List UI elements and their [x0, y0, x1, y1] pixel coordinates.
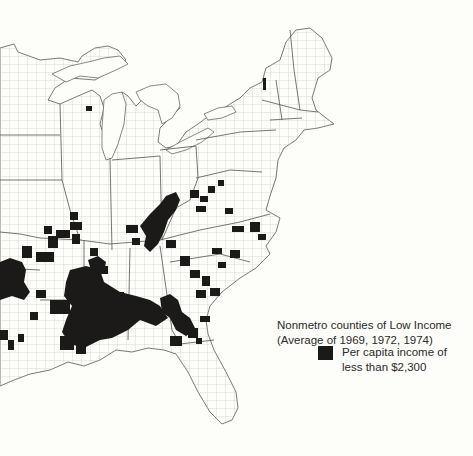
legend-swatch: [318, 346, 333, 360]
eastern-us-map: [0, 0, 473, 456]
legend-item-label: Per capita income of less than $2,300: [342, 345, 447, 375]
legend-label-line1: Per capita income of: [342, 345, 447, 360]
map-canvas: Nonmetro counties of Low Income (Average…: [0, 0, 473, 456]
legend-label-line2: less than $2,300: [342, 360, 447, 375]
legend-item-low-income: Per capita income of less than $2,300: [318, 345, 447, 375]
legend-title: Nonmetro counties of Low Income (Average…: [277, 318, 452, 348]
legend-title-line1: Nonmetro counties of Low Income: [277, 318, 452, 333]
